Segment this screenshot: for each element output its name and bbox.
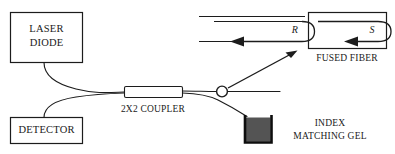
- fiber-laser-to-coupler: [44, 63, 124, 93]
- coupler-body: [125, 87, 183, 98]
- reflection-loop-R-path: [239, 22, 315, 42]
- detector-label: DETECTOR: [18, 124, 74, 135]
- laser-diode-component: LASER DIODE: [11, 13, 83, 63]
- gel-label-line2: MATCHING GEL: [293, 131, 366, 141]
- detector-component: DETECTOR: [11, 118, 83, 144]
- laser-diode-label-line1: LASER: [29, 23, 63, 34]
- pointer-arrow-shaft: [228, 54, 292, 89]
- coupler-label: 2X2 COUPLER: [121, 104, 186, 114]
- fiber-splice-ring: [217, 86, 228, 97]
- diagram-canvas: LASER DIODE DETECTOR 2X2 COUPLER: [0, 0, 395, 154]
- ray-label-S: S: [369, 24, 374, 35]
- fiber-detector-to-coupler: [44, 93, 124, 118]
- reflection-loop-R: R: [230, 22, 315, 47]
- reflection-loop-R-arrowhead: [230, 37, 244, 47]
- coupler-component: 2X2 COUPLER: [121, 87, 186, 115]
- fused-fiber-label: FUSED FIBER: [316, 53, 378, 63]
- laser-diode-label-line2: DIODE: [30, 37, 64, 48]
- fiber-coupler-to-gel: [183, 93, 248, 117]
- pointer-arrow-to-fused-fiber: [228, 51, 298, 89]
- pointer-arrow-head: [286, 51, 298, 59]
- fused-fiber-component: FUSED FIBER: [309, 13, 387, 64]
- index-matching-gel-component: INDEX MATCHING GEL: [245, 115, 367, 143]
- gel-fill: [246, 118, 271, 142]
- fused-fiber-box: [309, 13, 387, 49]
- ray-label-R: R: [291, 24, 298, 35]
- optical-setup-diagram: LASER DIODE DETECTOR 2X2 COUPLER: [0, 0, 395, 154]
- gel-label-line1: INDEX: [315, 118, 346, 128]
- fiber-coupler-to-splice: [183, 91, 217, 92]
